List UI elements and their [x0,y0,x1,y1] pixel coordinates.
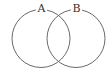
set-b-label: B [72,2,80,15]
set-a-circle [12,10,70,68]
set-a-label: A [37,2,47,15]
set-b-circle [47,10,105,68]
venn-diagram: A B [0,0,109,70]
